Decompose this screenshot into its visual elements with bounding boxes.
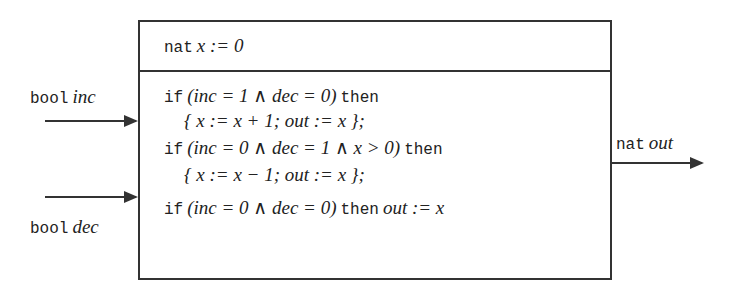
input-label-inc: bool inc [30,86,96,110]
if-keyword: if [164,201,183,219]
input-arrow-dec [45,196,136,198]
var-name: inc [72,86,95,107]
if-keyword: if [164,89,183,107]
type-keyword: nat [616,136,645,154]
input-label-dec: bool dec [30,216,99,240]
init-line: nat x := 0 [164,35,243,59]
condition: (inc = 1 ∧ dec = 0) [187,85,336,106]
rule-2-cond: if (inc = 0 ∧ dec = 1 ∧ x > 0) then [164,137,443,161]
type-keyword: bool [30,90,68,108]
body: out := x [383,197,444,218]
type-keyword: nat [164,39,193,57]
type-keyword: bool [30,220,68,238]
if-keyword: if [164,141,183,159]
body: { x := x + 1; out := x }; [184,110,365,131]
init-section: nat x := 0 [140,22,610,72]
condition: (inc = 0 ∧ dec = 1 ∧ x > 0) [187,137,400,158]
rule-1-body: { x := x + 1; out := x }; [184,110,365,133]
component-box: nat x := 0 if (inc = 1 ∧ dec = 0) then {… [138,20,612,280]
then-keyword: then [341,89,379,107]
then-keyword: then [341,201,379,219]
input-arrow-inc [45,120,136,122]
rule-1-cond: if (inc = 1 ∧ dec = 0) then [164,85,379,109]
output-label-out: nat out [616,132,673,156]
body: { x := x − 1; out := x }; [184,164,365,185]
var-name: out [649,132,673,153]
init-expr: x := 0 [197,35,244,56]
var-name: dec [72,216,98,237]
output-arrow-out [610,162,702,164]
rule-2-body: { x := x − 1; out := x }; [184,164,365,187]
rule-3: if (inc = 0 ∧ dec = 0) then out := x [164,197,444,221]
condition: (inc = 0 ∧ dec = 0) [187,197,336,218]
then-keyword: then [404,141,442,159]
